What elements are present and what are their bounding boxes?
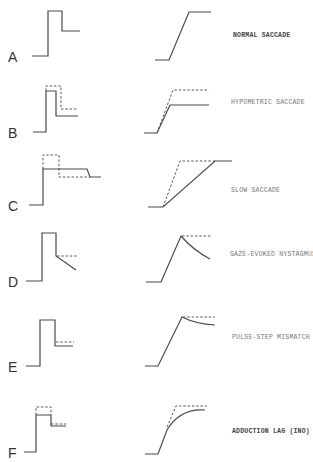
panel-c-position-solid [148,161,232,207]
panel-e [26,317,215,366]
panel-d-innervation-solid [26,233,76,281]
panel-letter-f: F [8,446,17,460]
panel-letter-e: E [8,360,17,374]
panel-title-e: PULSE-STEP MISMATCH [232,334,310,341]
panel-e-position-solid [145,317,215,366]
panel-letter-c: C [8,199,18,213]
panel-a-innervation-solid [32,11,80,56]
panel-a-position-solid [155,12,211,60]
panel-d-position-solid [146,236,210,282]
panel-title-f: ADDUCTION LAG (INO) [232,428,310,435]
panel-b-innervation-dashed [46,86,78,109]
panel-title-b: HYPOMETRIC SACCADE [231,99,305,106]
panel-f-position-solid [145,410,205,454]
panel-b-position-dashed [157,90,209,133]
panel-letter-a: A [8,50,17,64]
panel-title-d: GAZE-EVOKED NYSTAGMUS [230,251,313,258]
panel-letter-b: B [8,126,17,140]
panel-a [32,11,211,60]
panel-f-position-dashed [167,406,207,427]
saccade-diagram [0,0,313,462]
panel-b-position-solid [144,105,209,133]
panel-c [29,155,232,207]
panel-f-innervation-solid [24,415,66,452]
panel-c-innervation-dashed [43,155,90,177]
panel-title-c: SLOW SACCADE [231,187,280,194]
panel-f [24,406,207,454]
panel-title-a: NORMAL SACCADE [233,32,290,39]
panel-b [33,86,209,133]
panel-b-innervation-solid [33,91,78,132]
panel-d [26,233,212,282]
panel-c-innervation-solid [29,169,101,205]
panel-letter-d: D [8,275,18,289]
panel-e-innervation-solid [26,320,73,366]
